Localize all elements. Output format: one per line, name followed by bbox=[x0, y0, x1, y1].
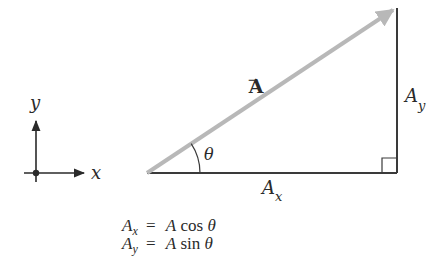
eq-ay-arg: θ bbox=[205, 234, 213, 253]
eq-ax-func: cos bbox=[180, 216, 203, 235]
vector-a-arrow bbox=[147, 10, 393, 173]
ax-subscript: x bbox=[275, 189, 283, 204]
angle-arc bbox=[191, 144, 200, 173]
eq-ay-equals: = bbox=[146, 234, 156, 253]
right-angle-marker bbox=[382, 158, 397, 173]
x-axis-label: x bbox=[91, 162, 101, 183]
coordinate-axes-icon: x y bbox=[24, 92, 101, 183]
eq-ay-func: sin bbox=[180, 234, 200, 253]
ax-symbol: A bbox=[260, 177, 275, 198]
theta-label: θ bbox=[204, 145, 214, 164]
eq-ax-equals: = bbox=[146, 216, 156, 235]
vector-a-symbol: A bbox=[248, 75, 264, 97]
y-axis-label: y bbox=[29, 92, 41, 113]
ay-label: A y bbox=[403, 85, 426, 113]
equation-ay: Ay = A sin θ bbox=[122, 235, 213, 253]
eq-ay-lhs: A bbox=[122, 234, 132, 253]
ax-label: A x bbox=[260, 177, 283, 204]
eq-ax-arg: θ bbox=[207, 216, 215, 235]
vector-diagram: x y θ → A A x A y bbox=[0, 0, 437, 274]
eq-ay-coef: A bbox=[166, 234, 176, 253]
ay-symbol: A bbox=[403, 85, 418, 106]
vector-a-label: → A bbox=[248, 73, 264, 97]
ay-subscript: y bbox=[417, 98, 426, 113]
eq-ax-coef: A bbox=[166, 216, 176, 235]
equation-ax: Ax = A cos θ bbox=[122, 217, 216, 235]
eq-ax-lhs: A bbox=[122, 216, 132, 235]
origin-dot bbox=[33, 170, 39, 176]
eq-ay-sub: y bbox=[132, 242, 137, 256]
